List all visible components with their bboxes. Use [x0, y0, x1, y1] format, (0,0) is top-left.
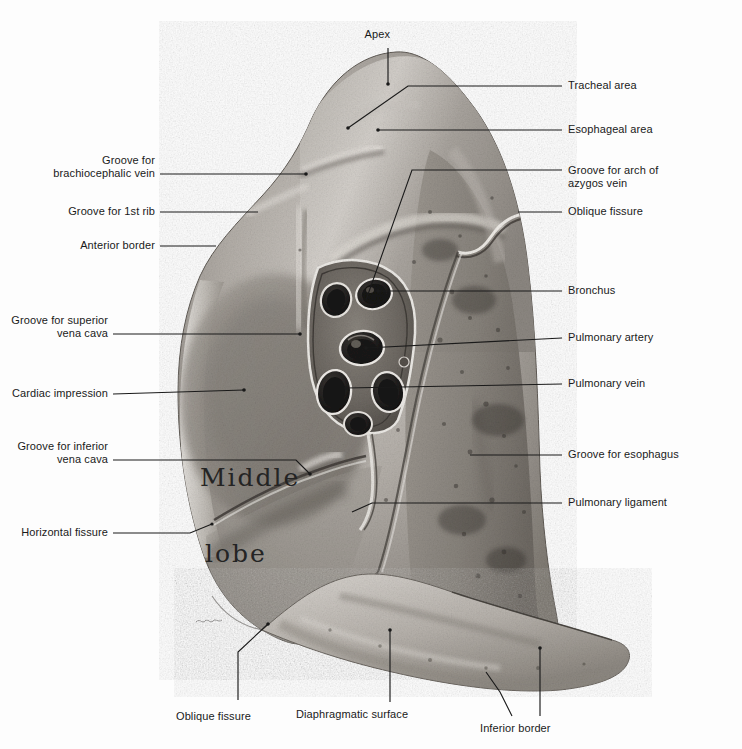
- label-cardiac-impression: Cardiac impression: [0, 387, 108, 400]
- label-tracheal-area: Tracheal area: [568, 79, 637, 92]
- handwritten-lobe: lobe: [205, 547, 267, 560]
- label-inferior-border: Inferior border: [480, 722, 551, 735]
- hilum-root: [308, 260, 415, 436]
- label-groove-svc-line1: Groove for superior: [0, 314, 108, 327]
- label-pulmonary-artery: Pulmonary artery: [568, 331, 653, 344]
- label-groove-ivc-line2: vena cava: [0, 453, 108, 466]
- label-esophageal-area: Esophageal area: [568, 123, 653, 136]
- label-oblique-fissure-top: Oblique fissure: [568, 205, 643, 218]
- label-groove-esophagus: Groove for esophagus: [568, 448, 679, 461]
- label-apex: Apex: [320, 28, 390, 41]
- label-groove-brachiocephalic-vein-line2: brachiocephalic vein: [0, 167, 155, 180]
- label-bronchus: Bronchus: [568, 284, 615, 297]
- label-groove-first-rib: Groove for 1st rib: [0, 205, 155, 218]
- label-diaphragmatic-surface: Diaphragmatic surface: [296, 708, 408, 721]
- lung-anatomy-illustration: [0, 0, 742, 749]
- label-pulmonary-vein: Pulmonary vein: [568, 377, 645, 390]
- label-groove-arch-azygos-line2: azygos vein: [568, 177, 627, 190]
- label-groove-ivc-line1: Groove for inferior: [0, 440, 108, 453]
- figure-canvas: Apex Tracheal area Esophageal area Groov…: [0, 0, 742, 749]
- label-groove-brachiocephalic-vein-line1: Groove for: [0, 154, 155, 167]
- label-anterior-border: Anterior border: [0, 239, 155, 252]
- label-horizontal-fissure: Horizontal fissure: [0, 526, 108, 539]
- label-oblique-fissure-bottom: Oblique fissure: [176, 710, 251, 723]
- label-pulmonary-ligament: Pulmonary ligament: [568, 496, 667, 509]
- label-groove-arch-azygos-line1: Groove for arch of: [568, 164, 658, 177]
- handwritten-middle: Middle: [200, 471, 300, 484]
- label-groove-svc-line2: vena cava: [0, 327, 108, 340]
